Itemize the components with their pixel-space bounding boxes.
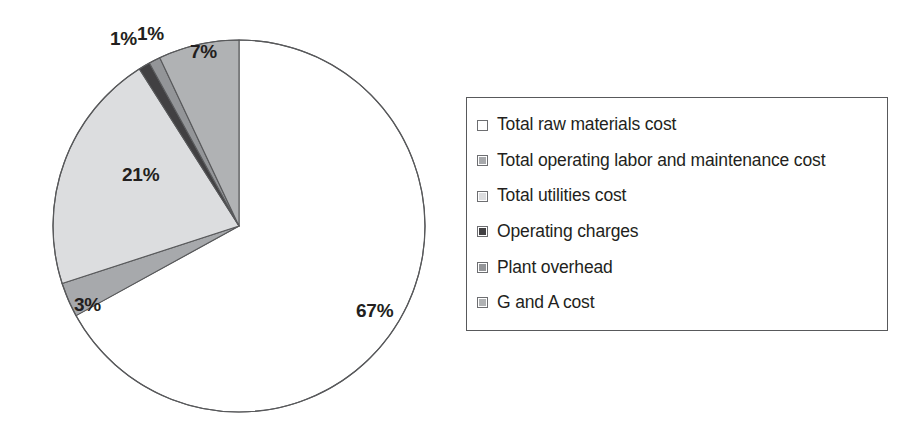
legend-item-list: Total raw materials costTotal operating … [477, 106, 881, 324]
legend-item-label: G and A cost [497, 294, 594, 312]
legend-item[interactable]: Total raw materials cost [477, 112, 881, 138]
legend-item-label: Total utilities cost [497, 187, 626, 205]
legend-swatch-total-operating-labor-and-maintenance-cost [477, 155, 488, 166]
pie-slice-data-label: 67% [356, 300, 393, 322]
legend-item-label: Operating charges [497, 223, 638, 241]
legend-item[interactable]: Total operating labor and maintenance co… [477, 148, 881, 174]
pie-slice-data-label: 7% [190, 41, 217, 63]
pie-slice-group [53, 40, 425, 412]
legend-swatch-plant-overhead [477, 262, 488, 273]
legend-item[interactable]: Total utilities cost [477, 183, 881, 209]
legend-item[interactable]: Operating charges [477, 219, 881, 245]
pie-slice-data-label: 1% [137, 23, 164, 45]
chart-legend: Total raw materials costTotal operating … [466, 97, 888, 331]
legend-swatch-total-raw-materials-cost [477, 120, 488, 131]
pie-chart-area: 67%3%21%1%1%7% [0, 0, 460, 437]
pie-slice-data-label: 1% [110, 28, 137, 50]
pie-slice-data-label: 3% [74, 294, 101, 316]
legend-item-label: Total raw materials cost [497, 116, 676, 134]
legend-item-label: Total operating labor and maintenance co… [497, 152, 825, 170]
legend-swatch-operating-charges [477, 226, 488, 237]
pie-chart-svg [0, 0, 460, 437]
legend-item-label: Plant overhead [497, 259, 613, 277]
legend-item[interactable]: G and A cost [477, 290, 881, 316]
pie-slice-data-label: 21% [122, 164, 159, 186]
legend-item[interactable]: Plant overhead [477, 254, 881, 280]
legend-swatch-total-utilities-cost [477, 191, 488, 202]
legend-swatch-g-and-a-cost [477, 297, 488, 308]
